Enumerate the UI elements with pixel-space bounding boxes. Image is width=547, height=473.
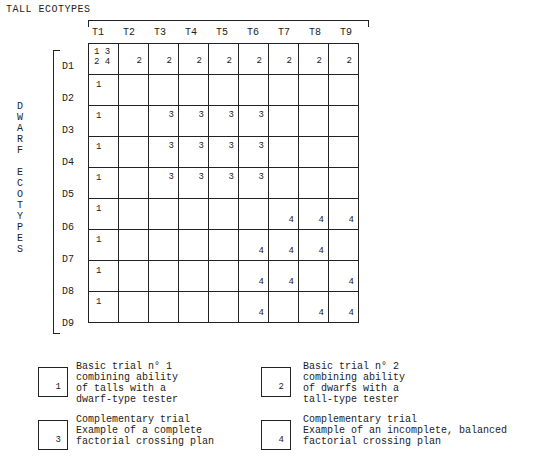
grid-cell	[119, 168, 149, 199]
cell-code: 2	[257, 56, 262, 66]
grid-cell: 3	[149, 106, 179, 137]
grid-cell	[179, 261, 209, 292]
grid-cell	[329, 230, 359, 261]
row-header-d3: D3	[62, 125, 74, 136]
column-header-t1: T1	[92, 27, 123, 38]
grid-cell: 4	[329, 292, 359, 323]
grid-cell	[119, 261, 149, 292]
legend-box-4: 4	[261, 420, 291, 450]
grid-cell	[239, 75, 269, 106]
row-header-d8: D8	[62, 286, 74, 297]
grid-cell: 1	[89, 168, 119, 199]
cell-code: 1	[96, 173, 101, 183]
grid-cell	[119, 292, 149, 323]
grid-cell: 1	[89, 292, 119, 323]
grid-cell: 2	[329, 44, 359, 75]
cell-code: 4	[349, 308, 354, 318]
grid-cell	[209, 292, 239, 323]
grid-cell	[299, 137, 329, 168]
column-header-t6: T6	[247, 27, 278, 38]
grid-cell	[299, 168, 329, 199]
legend-text-1: Basic trial n° 1 combining ability of ta…	[76, 361, 178, 405]
grid-cell: 3	[209, 106, 239, 137]
vertical-label-letter: D	[15, 101, 25, 112]
grid-cell: 2	[179, 44, 209, 75]
grid-cell: 3	[149, 168, 179, 199]
vertical-label-letter: Y	[15, 211, 25, 222]
grid-cell: 1 32 4	[89, 44, 119, 75]
grid-cell: 4	[299, 292, 329, 323]
grid-cell: 1	[89, 230, 119, 261]
column-header-t8: T8	[309, 27, 340, 38]
cell-code: 3	[229, 141, 234, 151]
row-header-d5: D5	[62, 189, 74, 200]
cell-code: 4	[319, 308, 324, 318]
column-header-t5: T5	[216, 27, 247, 38]
grid-cell	[119, 199, 149, 230]
grid-cell: 1	[89, 199, 119, 230]
grid-cell: 2	[149, 44, 179, 75]
cell-code: 4	[259, 246, 264, 256]
column-header-t7: T7	[278, 27, 309, 38]
vertical-label-letter: T	[15, 200, 25, 211]
legend-text-4: Complementary trial Example of an incomp…	[303, 414, 507, 447]
legend-box-3: 3	[38, 420, 68, 450]
column-header-t9: T9	[340, 27, 371, 38]
grid-cell: 3	[179, 168, 209, 199]
cell-code: 4	[259, 308, 264, 318]
grid-row: 1444	[89, 261, 359, 292]
grid-cell	[179, 199, 209, 230]
legend-box-1: 1	[38, 367, 68, 397]
cell-code: 3	[199, 141, 204, 151]
cell-code: 4	[289, 215, 294, 225]
grid-cell	[149, 75, 179, 106]
grid-cell	[329, 106, 359, 137]
grid-cell	[299, 106, 329, 137]
grid-row: 1444	[89, 199, 359, 230]
grid-cell: 2	[239, 44, 269, 75]
column-header-t2: T2	[123, 27, 154, 38]
cell-code: 3	[169, 172, 174, 182]
grid-cell	[119, 230, 149, 261]
grid-cell: 2	[209, 44, 239, 75]
cell-code: 4	[259, 277, 264, 287]
legend-text-2: Basic trial n° 2 combining ability of dw…	[303, 361, 405, 405]
grid-cell: 3	[179, 137, 209, 168]
vertical-label-letter: W	[15, 112, 25, 123]
grid-cell: 2	[299, 44, 329, 75]
cell-code: 1	[96, 297, 101, 307]
vertical-label-letter: F	[15, 145, 25, 156]
grid-cell: 3	[179, 106, 209, 137]
grid-row: 13333	[89, 168, 359, 199]
grid-cell: 3	[209, 137, 239, 168]
cell-code: 4	[319, 215, 324, 225]
grid-cell: 3	[149, 137, 179, 168]
grid-cell	[269, 75, 299, 106]
grid-cell: 1	[89, 106, 119, 137]
cell-code: 1	[96, 142, 101, 152]
grid-cell	[209, 261, 239, 292]
grid-row: 1444	[89, 292, 359, 323]
vertical-label-letter: O	[15, 189, 25, 200]
grid-cell	[149, 292, 179, 323]
grid-row: 1 32 422222222	[89, 44, 359, 75]
cell-code: 1	[96, 266, 101, 276]
grid-cell	[299, 261, 329, 292]
grid-cell: 4	[299, 199, 329, 230]
grid-cell: 4	[329, 199, 359, 230]
legend-code: 4	[279, 435, 284, 445]
grid-cell	[329, 137, 359, 168]
grid-cell: 3	[239, 137, 269, 168]
cell-code: 3	[169, 110, 174, 120]
grid-cell	[179, 230, 209, 261]
grid-cell	[239, 199, 269, 230]
grid-cell	[209, 199, 239, 230]
grid-cell	[149, 261, 179, 292]
row-header-d4: D4	[62, 157, 74, 168]
row-header-d9: D9	[62, 318, 74, 329]
cell-code: 4	[349, 215, 354, 225]
dwarf-ecotypes-label: DWARF ECOTYPES	[15, 101, 25, 255]
cell-code: 3	[199, 172, 204, 182]
cell-codes: 1 32 4	[94, 47, 110, 67]
vertical-label-letter: E	[15, 167, 25, 178]
